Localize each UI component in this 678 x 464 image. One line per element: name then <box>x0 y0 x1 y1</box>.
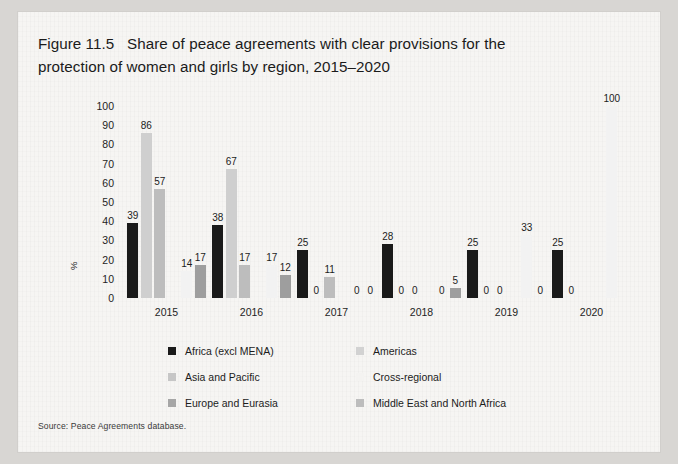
bar-slot: 0 <box>351 106 362 298</box>
bar-value-label: 17 <box>195 252 206 263</box>
figure-title: Figure 11.5 Share of peace agreements wi… <box>38 32 628 78</box>
bar-value-label: 0 <box>497 285 503 296</box>
y-axis-tick: 40 <box>82 215 114 227</box>
bar-value-label: 0 <box>568 285 574 296</box>
bar-slot: 11 <box>324 106 335 298</box>
bar[interactable] <box>552 250 563 298</box>
legend-item[interactable]: Asia and Pacific <box>168 371 260 383</box>
bar[interactable] <box>467 250 478 298</box>
legend-label: Africa (excl MENA) <box>185 345 274 357</box>
bar-value-label: 100 <box>603 93 620 104</box>
legend-label: Americas <box>373 345 417 357</box>
bar-slot: 67 <box>226 106 237 298</box>
bar-slot: 5 <box>450 106 461 298</box>
bar-slot: 0 <box>311 106 322 298</box>
y-axis-tick: 70 <box>82 158 114 170</box>
legend-item[interactable]: Americas <box>356 345 417 357</box>
bar-value-label: 0 <box>313 285 319 296</box>
bar-value-label: 17 <box>239 252 250 263</box>
y-axis-tick: 50 <box>82 196 114 208</box>
bar[interactable] <box>521 235 532 298</box>
bar-value-label: 11 <box>325 264 335 275</box>
bar[interactable] <box>450 288 461 298</box>
figure-title-line-2: protection of women and girls by region,… <box>38 55 628 78</box>
bar-value-label: 0 <box>398 285 404 296</box>
bar[interactable] <box>195 265 206 298</box>
x-axis-tick: 2020 <box>580 306 603 318</box>
plot-area: 3986571417386717171225011002800052500330… <box>124 106 634 298</box>
bar-value-label: 17 <box>266 252 277 263</box>
bar[interactable] <box>297 250 308 298</box>
legend-swatch-icon <box>168 373 176 381</box>
bar[interactable] <box>266 265 277 298</box>
bar-group: 3986571417 <box>124 106 209 298</box>
bar-value-label: 33 <box>521 222 532 233</box>
x-axis-tick: 2017 <box>325 306 348 318</box>
bar-group: 280005 <box>379 106 464 298</box>
y-axis-tick: 30 <box>82 234 114 246</box>
y-axis-title: % <box>68 262 79 270</box>
legend-item[interactable]: Africa (excl MENA) <box>168 345 274 357</box>
bar-value-label: 38 <box>212 212 223 223</box>
legend-label: Middle East and North Africa <box>373 397 506 409</box>
legend-swatch-icon <box>356 399 364 407</box>
bar-value-label: 0 <box>412 285 418 296</box>
y-axis-tick: 60 <box>82 177 114 189</box>
bar-group: 3867171712 <box>209 106 294 298</box>
bar[interactable] <box>127 223 138 298</box>
bar-value-label: 0 <box>537 285 543 296</box>
bar-group: 250100 <box>549 106 634 298</box>
bar-slot: 25 <box>297 106 308 298</box>
bar-slot: 0 <box>566 106 577 298</box>
bar-value-label: 25 <box>297 237 308 248</box>
bar-slot: 0 <box>396 106 407 298</box>
bar-slot: 57 <box>154 106 165 298</box>
legend-label: Asia and Pacific <box>185 371 260 383</box>
bar[interactable] <box>181 271 192 298</box>
bar-slot: 38 <box>212 106 223 298</box>
y-axis-tick: 0 <box>82 292 114 304</box>
legend-swatch-icon <box>356 373 364 381</box>
bar-value-label: 12 <box>280 262 291 273</box>
bar[interactable] <box>141 133 152 298</box>
bar[interactable] <box>280 275 291 298</box>
bar[interactable] <box>226 169 237 298</box>
bar-slot: 0 <box>535 106 546 298</box>
y-axis-tick: 90 <box>82 119 114 131</box>
y-axis-tick: 80 <box>82 138 114 150</box>
bar[interactable] <box>324 277 335 298</box>
y-axis-tick: 20 <box>82 254 114 266</box>
figure-title-line-1: Figure 11.5 Share of peace agreements wi… <box>38 32 628 55</box>
bar-value-label: 5 <box>452 275 458 286</box>
bar-value-label: 0 <box>354 285 360 296</box>
bar-slot: 25 <box>552 106 563 298</box>
bar-value-label: 57 <box>154 176 165 187</box>
bar-group: 2500330 <box>464 106 549 298</box>
legend-swatch-icon <box>168 347 176 355</box>
x-axis-tick: 2015 <box>155 306 178 318</box>
bar[interactable] <box>212 225 223 298</box>
bar[interactable] <box>154 189 165 298</box>
legend-item[interactable]: Middle East and North Africa <box>356 397 506 409</box>
bar-slot: 0 <box>481 106 492 298</box>
x-axis-tick: 2016 <box>240 306 263 318</box>
legend-swatch-icon <box>356 347 364 355</box>
bar[interactable] <box>382 244 393 298</box>
bar-value-label: 0 <box>483 285 489 296</box>
bar[interactable] <box>606 106 617 298</box>
bar-value-label: 0 <box>439 285 445 296</box>
bar-value-label: 0 <box>367 285 373 296</box>
y-axis-tick: 100 <box>82 100 114 112</box>
legend-item[interactable]: Cross-regional <box>356 371 441 383</box>
bar-slot: 86 <box>141 106 152 298</box>
bar-slot: 0 <box>409 106 420 298</box>
legend-label: Europe and Eurasia <box>185 397 278 409</box>
legend-item[interactable]: Europe and Eurasia <box>168 397 278 409</box>
bar-value-label: 14 <box>181 258 192 269</box>
x-axis-tick: 2018 <box>410 306 433 318</box>
legend-swatch-icon <box>168 399 176 407</box>
bar-value-label: 86 <box>141 120 152 131</box>
bar-slot: 17 <box>239 106 250 298</box>
bar[interactable] <box>239 265 250 298</box>
bar-value-label: 39 <box>127 210 138 221</box>
